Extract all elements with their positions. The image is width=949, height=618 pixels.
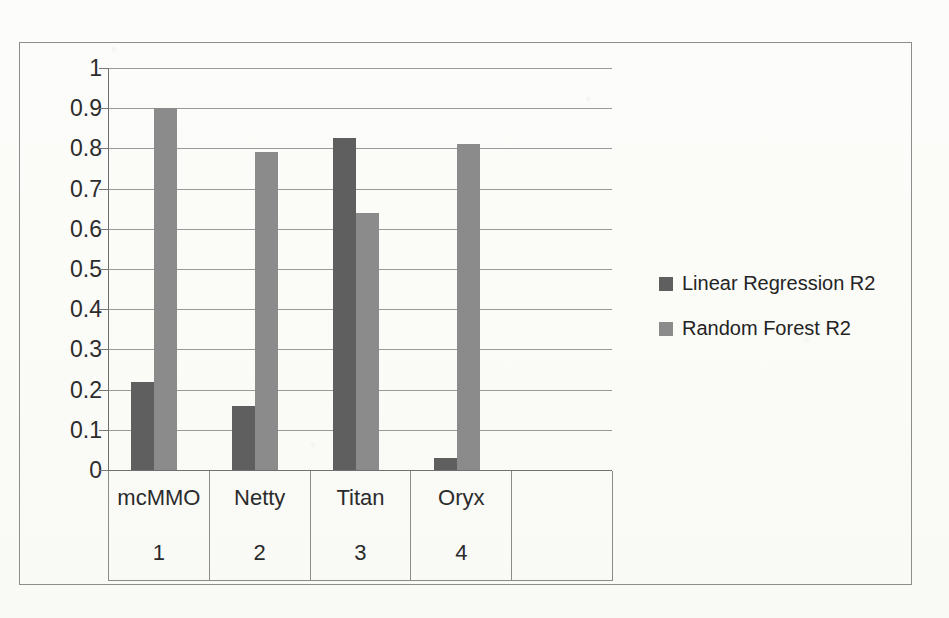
y-axis-tick-label: 0.6 <box>44 217 102 240</box>
y-axis-tick-mark <box>99 148 108 149</box>
y-axis-tick-label: 0.5 <box>44 258 102 281</box>
y-axis-tick-label: 0 <box>44 459 102 482</box>
bar <box>333 138 356 470</box>
x-axis-category-index: 4 <box>411 526 511 581</box>
x-axis-category-cell: Oryx4 <box>411 471 512 580</box>
chart-plot-area: 10.90.80.70.60.50.40.30.20.10 mcMMO1Nett… <box>0 0 949 618</box>
bar <box>131 382 154 470</box>
legend-item-label: Linear Regression R2 <box>682 272 875 295</box>
bar-group <box>511 68 612 470</box>
legend-swatch-icon <box>659 322 673 336</box>
x-axis-category-cell: mcMMO1 <box>109 471 210 580</box>
bar <box>457 144 480 470</box>
y-axis-tick-mark <box>99 309 108 310</box>
y-axis-tick-label: 0.2 <box>44 378 102 401</box>
x-axis-category-cell <box>512 471 612 580</box>
x-axis-category-cell: Titan3 <box>311 471 412 580</box>
chart-legend: Linear Regression R2Random Forest R2 <box>659 272 899 362</box>
y-axis-tick-mark <box>99 229 108 230</box>
x-axis-category-index: 3 <box>311 526 411 581</box>
x-axis-category-name: Titan <box>311 471 411 526</box>
y-axis-tick-label: 0.4 <box>44 298 102 321</box>
y-axis-tick-mark <box>99 68 108 69</box>
y-axis-tick-mark <box>99 470 108 471</box>
y-axis-tick-mark <box>99 269 108 270</box>
bar <box>255 152 278 470</box>
y-axis-tick-mark <box>99 430 108 431</box>
bar-group <box>310 68 411 470</box>
bar-group <box>209 68 310 470</box>
x-axis-category-cell: Netty2 <box>210 471 311 580</box>
bar <box>356 213 379 470</box>
y-axis-tick-mark <box>99 390 108 391</box>
x-axis-category-name: Netty <box>210 471 310 526</box>
x-axis-category-name: Oryx <box>411 471 511 526</box>
x-axis-category-table: mcMMO1Netty2Titan3Oryx4 <box>108 471 613 581</box>
legend-item-label: Random Forest R2 <box>682 317 851 340</box>
y-axis-tick-mark <box>99 189 108 190</box>
y-axis-tick-mark <box>99 349 108 350</box>
y-axis-tick-mark <box>99 108 108 109</box>
bar <box>154 108 177 470</box>
y-axis-tick-label: 0.1 <box>44 418 102 441</box>
y-axis-tick-label: 0.9 <box>44 97 102 120</box>
x-axis-category-index <box>512 526 612 581</box>
bar <box>434 458 457 470</box>
y-axis-tick-label: 0.3 <box>44 338 102 361</box>
legend-item[interactable]: Linear Regression R2 <box>659 272 899 295</box>
y-axis-tick-labels: 10.90.80.70.60.50.40.30.20.10 <box>44 56 102 482</box>
bar-series-layer <box>108 68 612 470</box>
x-axis-category-index: 1 <box>109 526 209 581</box>
bar-group <box>410 68 511 470</box>
x-axis-category-name <box>512 471 612 526</box>
x-axis-category-name: mcMMO <box>109 471 209 526</box>
y-axis-tick-label: 1 <box>44 57 102 80</box>
legend-swatch-icon <box>659 277 673 291</box>
bar-group <box>108 68 209 470</box>
bar <box>232 406 255 470</box>
x-axis-category-index: 2 <box>210 526 310 581</box>
y-axis-tick-label: 0.7 <box>44 177 102 200</box>
legend-item[interactable]: Random Forest R2 <box>659 317 899 340</box>
y-axis-tick-label: 0.8 <box>44 137 102 160</box>
